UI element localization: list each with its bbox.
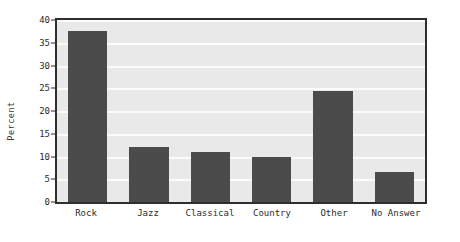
x-axis-tick-labels: RockJazzClassicalCountryOtherNo Answer [55, 206, 427, 226]
y-axis-tick-label: 15 [39, 129, 50, 139]
y-axis-tick-label: 35 [39, 38, 50, 48]
bar-slot [364, 20, 425, 202]
y-axis-title: Percent [0, 0, 22, 242]
bar [313, 91, 352, 202]
y-axis-tick-label: 40 [39, 15, 50, 25]
y-axis-tick-label: 25 [39, 83, 50, 93]
x-axis-tick-label: Country [241, 206, 303, 226]
x-axis-tick-label: Other [303, 206, 365, 226]
x-axis-tick-label: No Answer [365, 206, 427, 226]
y-axis-tick-label: 0 [45, 197, 50, 207]
bar-slot [241, 20, 302, 202]
bar [68, 31, 107, 202]
y-axis-tick-label: 10 [39, 152, 50, 162]
y-axis-tick-label: 20 [39, 106, 50, 116]
x-axis-tick-label: Rock [55, 206, 117, 226]
x-axis-tick-label: Jazz [117, 206, 179, 226]
y-axis-tick-label: 5 [45, 174, 50, 184]
bar [191, 152, 230, 202]
plot-area [55, 18, 427, 204]
y-axis-tick-labels: 0510152025303540 [22, 18, 55, 204]
bar [129, 147, 168, 202]
bar [375, 172, 414, 202]
y-axis-tick-label: 30 [39, 61, 50, 71]
x-axis-tick-label: Classical [179, 206, 241, 226]
bar [252, 157, 291, 203]
bar-slot [57, 20, 118, 202]
bar-slot [180, 20, 241, 202]
bar-chart: Percent 0510152025303540 RockJazzClassic… [0, 0, 460, 242]
bar-slot [118, 20, 179, 202]
bar-slot [302, 20, 363, 202]
y-axis-title-text: Percent [6, 101, 16, 140]
bar-series [57, 20, 425, 202]
